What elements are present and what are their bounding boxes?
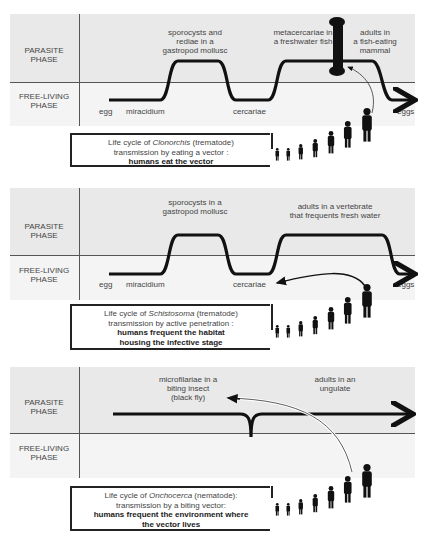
human-figure-icon [313, 139, 318, 157]
human-figure-icon [299, 499, 303, 514]
panel-onchocerca: PARASITE PHASE FREE-LIVING PHASE microfi… [0, 360, 423, 541]
human-figure-icon [328, 131, 334, 153]
panel-schistosoma: PARASITE PHASE FREE-LIVING PHASE egg mir… [0, 180, 423, 360]
human-figure-icon [286, 325, 290, 338]
human-figure-icon [299, 144, 303, 159]
human-figure-icon [313, 316, 318, 334]
human-figures-2 [0, 180, 423, 360]
human-figure-icon [344, 297, 352, 324]
human-figure-icon [286, 503, 290, 516]
human-figure-icon [362, 464, 372, 498]
human-figure-icon [362, 284, 372, 318]
human-figures-3 [0, 360, 423, 541]
human-figure-icon [275, 148, 279, 161]
human-figure-icon [344, 476, 352, 503]
human-figure-icon [344, 121, 352, 148]
human-figure-icon [275, 325, 279, 338]
human-figure-icon [328, 486, 334, 508]
human-figure-icon [275, 503, 279, 516]
human-figures-1 [0, 0, 423, 180]
panel-clonorchis: PARASITE PHASE FREE-LIVING PHASE egg mir… [0, 0, 423, 180]
human-figure-icon [362, 108, 372, 142]
human-figure-icon [313, 494, 318, 512]
human-figure-icon [286, 148, 290, 161]
human-figure-icon [299, 321, 303, 336]
human-figure-icon [328, 307, 334, 329]
